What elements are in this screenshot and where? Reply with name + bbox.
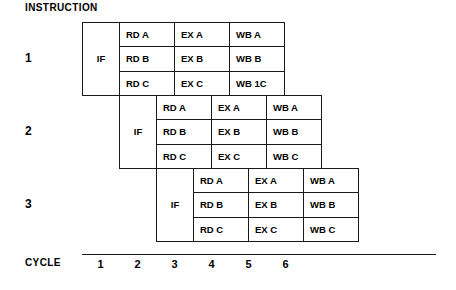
stage-cell: RD A [194,169,249,193]
page-title: INSTRUCTION [25,2,98,13]
instruction-row-number: 1 [25,51,32,65]
stage-cell: RD A [157,96,212,120]
cycle-tick-label: 2 [128,258,148,270]
stage-row: RD AEX AWB A [194,169,359,193]
pipeline-diagram: INSTRUCTION IFRD AEX AWB ARD BEX BWB BRD… [0,0,456,290]
instruction-row-number: 2 [25,124,32,138]
stage-row: RD CEX CWB C [157,145,322,169]
stage-cell: EX B [175,47,230,71]
stage-cell: WB A [230,23,285,47]
instruction-row-number: 3 [25,197,32,211]
stage-row: RD BEX BWB B [157,120,322,144]
stage-row: RD BEX BWB B [194,193,359,217]
stage-cell: RD B [157,120,212,144]
stage-cell: WB C [304,218,359,242]
stage-grid: RD AEX AWB ARD BEX BWB BRD CEX CWB C [157,96,322,169]
stage-row: RD AEX AWB A [157,96,322,120]
stage-cell: EX A [175,23,230,47]
stage-cell-if: IF [120,96,157,169]
stage-cell: WB B [230,47,285,71]
stage-cell: EX B [249,193,304,217]
stage-cell: EX A [249,169,304,193]
cycle-tick-label: 1 [91,258,111,270]
stage-row: RD CEX CWB C [194,218,359,242]
stage-cell: WB 1C [230,72,285,96]
stage-cell: WB A [304,169,359,193]
stage-row: RD CEX CWB 1C [120,72,285,96]
cycle-axis-line [82,254,436,255]
cycle-tick-label: 5 [239,258,259,270]
cycle-tick-label: 3 [165,258,185,270]
stage-cell: RD C [194,218,249,242]
cycle-tick-label: 4 [202,258,222,270]
cycle-tick-label: 6 [276,258,296,270]
stage-cell: EX C [249,218,304,242]
stage-row: RD AEX AWB A [120,23,285,47]
stage-cell: EX A [212,96,267,120]
cycle-axis-label: CYCLE [25,257,61,268]
stage-cell: RD B [194,193,249,217]
stage-cell: EX B [212,120,267,144]
stage-cell-if: IF [83,23,120,96]
stage-row: RD BEX BWB B [120,47,285,71]
stage-cell: RD A [120,23,175,47]
stage-cell: WB B [267,120,322,144]
pipeline-block: IFRD AEX AWB ARD BEX BWB BRD CEX CWB C [156,168,359,242]
stage-cell-if: IF [157,169,194,242]
stage-cell: EX C [175,72,230,96]
pipeline-block: IFRD AEX AWB ARD BEX BWB BRD CEX CWB C [119,95,322,169]
stage-grid: RD AEX AWB ARD BEX BWB BRD CEX CWB 1C [120,23,285,96]
stage-cell: WB C [267,145,322,169]
pipeline-block: IFRD AEX AWB ARD BEX BWB BRD CEX CWB 1C [82,22,285,96]
stage-cell: WB A [267,96,322,120]
stage-cell: RD B [120,47,175,71]
stage-cell: EX C [212,145,267,169]
stage-cell: RD C [120,72,175,96]
stage-cell: RD C [157,145,212,169]
stage-grid: RD AEX AWB ARD BEX BWB BRD CEX CWB C [194,169,359,242]
stage-cell: WB B [304,193,359,217]
